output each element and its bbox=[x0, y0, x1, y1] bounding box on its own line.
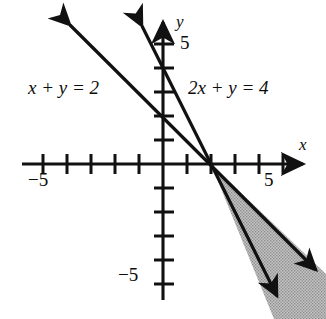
graph-canvas bbox=[0, 0, 326, 319]
equation-label-2x-plus-y: 2x + y = 4 bbox=[188, 78, 269, 97]
x-axis-label: x bbox=[299, 136, 307, 153]
x-tick-label-minus-5: −5 bbox=[28, 170, 48, 189]
y-tick-label-minus-5: −5 bbox=[118, 265, 138, 284]
y-tick-label-5: 5 bbox=[180, 33, 190, 52]
x-tick-label-5: 5 bbox=[264, 170, 274, 189]
equation-label-x-plus-y: x + y = 2 bbox=[28, 78, 99, 97]
y-axis-label: y bbox=[176, 13, 184, 30]
